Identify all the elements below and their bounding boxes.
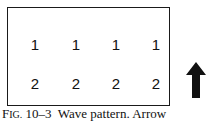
cell-r1-c1: 1	[28, 36, 42, 53]
cell-r2-c1: 2	[28, 75, 42, 92]
cell-r2-c4: 2	[149, 75, 163, 92]
cell-r2-c2: 2	[69, 75, 83, 92]
arrow-up-icon	[186, 62, 206, 98]
cell-r1-c2: 1	[69, 36, 83, 53]
cell-r1-c4: 1	[149, 36, 163, 53]
cell-r1-c3: 1	[109, 36, 123, 53]
cell-r2-c3: 2	[109, 75, 123, 92]
wave-pattern-box: 1 1 1 1 2 2 2 2	[7, 7, 170, 106]
figure-caption: FIG. 10–3 Wave pattern. Arrow	[2, 106, 166, 122]
